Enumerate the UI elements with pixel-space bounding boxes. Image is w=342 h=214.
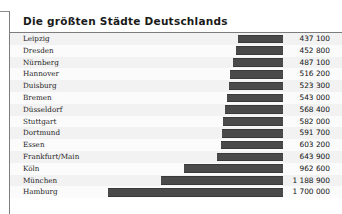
table-row: Leipzig437 100 bbox=[10, 33, 342, 45]
table-row: Hannover516 200 bbox=[10, 68, 342, 80]
table-row: Hamburg1 700 000 bbox=[10, 186, 342, 198]
table-row: Stuttgart582 000 bbox=[10, 116, 342, 128]
table-row: Dresden452 800 bbox=[10, 45, 342, 57]
value-label: 543 000 bbox=[10, 92, 330, 104]
value-label: 523 300 bbox=[10, 80, 330, 92]
chart-panel: Die größten Städte Deutschlands Leipzig4… bbox=[9, 11, 342, 214]
table-row: Essen603 200 bbox=[10, 139, 342, 151]
table-row: Frankfurt/Main643 900 bbox=[10, 151, 342, 163]
value-label: 516 200 bbox=[10, 68, 330, 80]
value-label: 487 100 bbox=[10, 57, 330, 69]
chart-page: Die größten Städte Deutschlands Leipzig4… bbox=[0, 0, 342, 214]
value-label: 452 800 bbox=[10, 45, 330, 57]
value-label: 437 100 bbox=[10, 33, 330, 45]
value-label: 643 900 bbox=[10, 151, 330, 163]
value-label: 591 700 bbox=[10, 127, 330, 139]
table-row: Nürnberg487 100 bbox=[10, 57, 342, 69]
table-row: Dortmund591 700 bbox=[10, 127, 342, 139]
value-label: 568 400 bbox=[10, 104, 330, 116]
value-label: 962 600 bbox=[10, 163, 330, 175]
table-row: Düsseldorf568 400 bbox=[10, 104, 342, 116]
value-label: 603 200 bbox=[10, 139, 330, 151]
page-title: Die größten Städte Deutschlands bbox=[23, 15, 228, 27]
value-label: 1 700 000 bbox=[10, 186, 330, 198]
value-label: 582 000 bbox=[10, 116, 330, 128]
table-row: Duisburg523 300 bbox=[10, 80, 342, 92]
table-row: München1 188 900 bbox=[10, 175, 342, 187]
chart-rows: Leipzig437 100Dresden452 800Nürnberg487 … bbox=[10, 33, 342, 214]
table-row: Bremen543 000 bbox=[10, 92, 342, 104]
value-label: 1 188 900 bbox=[10, 175, 330, 187]
table-row: Köln962 600 bbox=[10, 163, 342, 175]
chart-title-band: Die größten Städte Deutschlands bbox=[10, 11, 342, 33]
